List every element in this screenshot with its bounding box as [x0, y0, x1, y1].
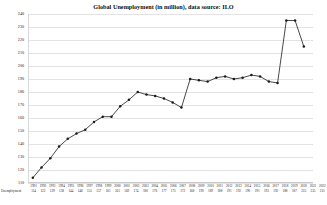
data-point — [294, 19, 297, 22]
table-value-cell: 192 — [234, 189, 243, 194]
data-point — [40, 166, 43, 169]
data-point — [268, 80, 271, 83]
data-point — [215, 76, 218, 79]
data-point — [58, 145, 61, 148]
table-year-cell: 2019 — [290, 184, 299, 189]
table-value-cell: 178 — [150, 189, 159, 194]
y-axis-tick-labels: 2402302202102001901801701601501401301201… — [0, 14, 26, 183]
table-value-cell: 187 — [290, 189, 299, 194]
table-value-cell: 151 — [85, 189, 94, 194]
data-point — [49, 157, 52, 160]
y-tick-label: 200 — [18, 64, 24, 68]
data-point — [224, 75, 227, 78]
table-value-cell: 190 — [197, 189, 206, 194]
table-year-cell: 2004 — [150, 184, 159, 189]
table-row-values: Unemployment 114122129138144148151157161… — [0, 189, 327, 194]
table-year-cell: 2022 — [318, 184, 327, 189]
table-value-cell: 175 — [169, 189, 178, 194]
data-point — [154, 95, 157, 98]
data-point — [128, 99, 131, 102]
table-row-label: Unemployment — [0, 189, 29, 194]
data-point — [285, 19, 288, 22]
data-point — [276, 82, 279, 85]
table-year-cell: 2010 — [206, 184, 215, 189]
data-point — [198, 79, 201, 82]
table-value-cell: 129 — [48, 189, 57, 194]
data-point — [67, 138, 70, 141]
table-year-cell: 2007 — [178, 184, 187, 189]
plot-area — [28, 14, 313, 183]
data-point — [250, 74, 253, 77]
data-point — [233, 78, 236, 81]
table-value-cell: 144 — [66, 189, 75, 194]
table-value-cell: 122 — [38, 189, 47, 194]
table-value-cell: 169 — [122, 189, 131, 194]
table-value-cell: 189 — [206, 189, 215, 194]
table-year-cell: 1991 — [29, 184, 38, 189]
table-year-cell: 2003 — [141, 184, 150, 189]
data-point — [102, 115, 105, 118]
chart-screenshot: Global Unemployment (in million), data s… — [0, 0, 327, 205]
table-value-cell: 235 — [308, 189, 317, 194]
table-year-cell: 2020 — [299, 184, 308, 189]
data-point — [189, 78, 192, 81]
data-point — [180, 106, 183, 109]
y-tick-label: 140 — [18, 142, 24, 146]
table-value-cell: 180 — [141, 189, 150, 194]
y-tick-label: 150 — [18, 129, 24, 133]
y-tick-label: 240 — [18, 12, 24, 16]
data-point — [32, 177, 35, 180]
table-value-cell: 192 — [271, 189, 280, 194]
table-year-cell: 2000 — [113, 184, 122, 189]
y-tick-label: 190 — [18, 77, 24, 81]
table-value-cell: 161 — [103, 189, 112, 194]
data-table-grid: 1991199219931994199519961997199819992000… — [0, 184, 327, 193]
y-tick-label: 230 — [18, 25, 24, 29]
data-point — [119, 105, 122, 108]
data-point — [303, 45, 306, 48]
table-value-cell: 172 — [178, 189, 187, 194]
table-year-cell: 1997 — [85, 184, 94, 189]
y-tick-label: 120 — [18, 168, 24, 172]
table-row-years: 1991199219931994199519961997199819992000… — [0, 184, 327, 189]
table-value-cell: 191 — [252, 189, 261, 194]
table-value-cell: 188 — [215, 189, 224, 194]
data-point — [136, 91, 139, 94]
data-point — [171, 101, 174, 104]
table-value-cell: 168 — [187, 189, 196, 194]
table-year-cell: 2013 — [234, 184, 243, 189]
y-tick-label: 210 — [18, 51, 24, 55]
table-year-cell: 2001 — [122, 184, 131, 189]
y-tick-label: 180 — [18, 90, 24, 94]
table-year-cell: 2006 — [169, 184, 178, 189]
data-point — [259, 75, 262, 78]
table-value-cell: 215 — [318, 189, 327, 194]
table-value-cell: 191 — [224, 189, 233, 194]
table-value-cell: 148 — [75, 189, 84, 194]
data-point — [241, 76, 244, 79]
table-year-cell: 2016 — [262, 184, 271, 189]
series-unemployment — [28, 14, 313, 183]
table-value-cell: 190 — [243, 189, 252, 194]
y-tick-label: 170 — [18, 103, 24, 107]
chart-title: Global Unemployment (in million), data s… — [0, 3, 327, 10]
table-value-cell: 138 — [57, 189, 66, 194]
y-tick-label: 130 — [18, 155, 24, 159]
data-table: 1991199219931994199519961997199819992000… — [0, 184, 327, 205]
table-value-cell: 177 — [159, 189, 168, 194]
data-point — [84, 128, 87, 131]
y-tick-label: 160 — [18, 116, 24, 120]
data-point — [75, 132, 78, 135]
data-point — [145, 93, 148, 96]
table-value-cell: 114 — [29, 189, 38, 194]
data-point — [93, 121, 96, 124]
table-year-cell: 1994 — [57, 184, 66, 189]
data-point — [163, 97, 166, 100]
table-value-cell: 188 — [280, 189, 289, 194]
y-tick-label: 220 — [18, 38, 24, 42]
table-value-cell: 161 — [113, 189, 122, 194]
table-year-cell: 2017 — [271, 184, 280, 189]
table-value-cell: 174 — [131, 189, 140, 194]
data-point — [206, 80, 209, 83]
table-value-cell: 157 — [94, 189, 103, 194]
